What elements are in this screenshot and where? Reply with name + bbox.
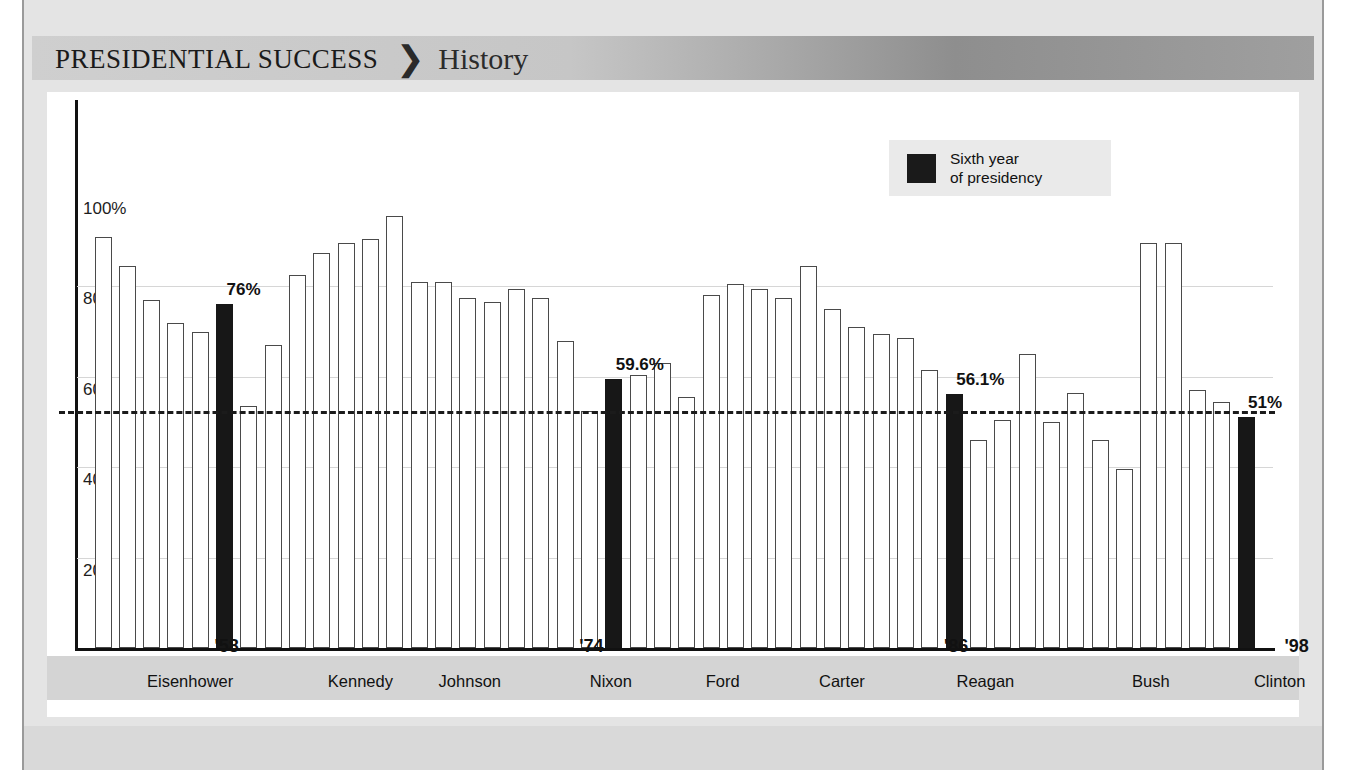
chart-card: 100%80604020 76%59.6%56.1%51% Sixth year… (47, 92, 1299, 717)
bar (1116, 469, 1133, 648)
bar (435, 282, 452, 648)
bar (630, 375, 647, 648)
bar-value-label: 56.1% (956, 371, 1004, 388)
bar (338, 243, 355, 648)
bar (508, 289, 525, 648)
bar (265, 345, 282, 648)
bar (1019, 354, 1036, 648)
chevron-right-icon: ❯ (396, 42, 424, 76)
bar (1092, 440, 1109, 648)
bar (532, 298, 549, 648)
legend-line-2: of presidency (950, 168, 1042, 187)
bar (362, 239, 379, 648)
bar-sixth-year (946, 394, 963, 648)
bar (775, 298, 792, 648)
bar (313, 253, 330, 649)
year-marker-label: '98 (1285, 636, 1309, 657)
header-title: PRESIDENTIAL SUCCESS (55, 44, 378, 75)
bar (654, 363, 671, 648)
year-marker-label: '74 (579, 636, 603, 657)
president-label: Reagan (956, 672, 1014, 691)
bar (1043, 422, 1060, 648)
bar-sixth-year (216, 304, 233, 648)
bar (192, 332, 209, 648)
president-label: Carter (819, 672, 865, 691)
bar (970, 440, 987, 648)
legend-line-1: Sixth year (950, 149, 1042, 168)
bar-value-label: 51% (1248, 394, 1282, 411)
bar (167, 323, 184, 648)
bar (994, 420, 1011, 648)
president-label: Eisenhower (147, 672, 233, 691)
legend-label: Sixth year of presidency (950, 149, 1042, 188)
bar (1189, 390, 1206, 648)
bar (240, 406, 257, 648)
president-label: Nixon (590, 672, 632, 691)
bar (1140, 243, 1157, 648)
bar (1067, 393, 1084, 648)
year-marker-label: '58 (214, 636, 238, 657)
president-label: Clinton (1254, 672, 1305, 691)
bar (95, 237, 112, 648)
bar (678, 397, 695, 648)
bar (751, 289, 768, 648)
plot-area: 100%80604020 76%59.6%56.1%51% Sixth year… (47, 92, 1299, 717)
bar (289, 275, 306, 648)
bar-value-label: 76% (227, 281, 261, 298)
president-label: Kennedy (328, 672, 393, 691)
bar (386, 216, 403, 648)
bar (873, 334, 890, 648)
bar (897, 338, 914, 648)
bar (1213, 402, 1230, 648)
header-subtitle: History (438, 42, 528, 76)
bar (703, 295, 720, 648)
bar (119, 266, 136, 648)
page-rule-right (1322, 0, 1324, 770)
bar (459, 298, 476, 648)
president-label: Bush (1132, 672, 1170, 691)
bar-sixth-year (605, 379, 622, 648)
bar (800, 266, 817, 648)
bar (727, 284, 744, 648)
bar-sixth-year (1238, 417, 1255, 648)
legend: Sixth year of presidency (889, 140, 1111, 196)
bar (557, 341, 574, 648)
president-label: Johnson (439, 672, 501, 691)
president-label: Ford (706, 672, 740, 691)
bar (1165, 243, 1182, 648)
bar (848, 327, 865, 648)
bar (484, 302, 501, 648)
year-marker-label: '86 (944, 636, 968, 657)
bar-value-label: 59.6% (616, 356, 664, 373)
figure-root: PRESIDENTIAL SUCCESS ❯ History 100%80604… (0, 0, 1346, 770)
header: PRESIDENTIAL SUCCESS ❯ History (55, 38, 528, 80)
bar-series (47, 92, 1299, 651)
bar (411, 282, 428, 648)
bar (824, 309, 841, 648)
bar (143, 300, 160, 648)
bar (581, 411, 598, 648)
legend-swatch-sixth-year (907, 154, 936, 183)
average-line (59, 411, 1275, 414)
bottom-band (24, 726, 1322, 770)
x-axis-label-strip (47, 656, 1299, 700)
